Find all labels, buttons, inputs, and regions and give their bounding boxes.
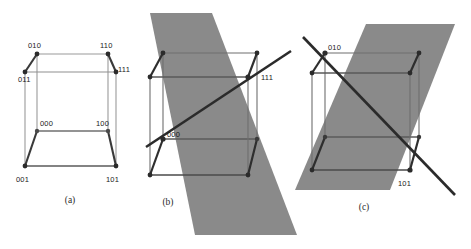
cube-vertex-011 <box>310 71 315 76</box>
cube-vertex-100 <box>255 137 259 141</box>
cube-vertex-000 <box>323 135 327 139</box>
panel-caption-a: (a) <box>65 195 76 206</box>
vertex-label-100: 100 <box>96 119 109 128</box>
panel-caption-b: (b) <box>162 197 173 208</box>
cube-vertex-111 <box>408 71 413 76</box>
vertex-label-111: 111 <box>261 73 273 82</box>
vertex-label-011: 011 <box>18 75 31 84</box>
vertex-label-101: 101 <box>398 179 411 188</box>
cube-vertex-110 <box>417 51 422 56</box>
vertex-label-000: 000 <box>40 119 53 128</box>
cube-vertex-001 <box>23 164 28 169</box>
cube-vertex-101 <box>407 167 412 172</box>
vertex-label-001: 001 <box>16 175 29 184</box>
vertex-label-101: 101 <box>106 175 119 184</box>
cube-vertex-100 <box>417 135 421 139</box>
cube-vertex-101 <box>114 164 119 169</box>
cube-vertex-000 <box>160 136 165 141</box>
cube-vertex-011 <box>148 75 153 80</box>
cube-vertex-100 <box>106 129 110 133</box>
cube-vertex-010 <box>35 52 40 57</box>
vertex-label-010: 010 <box>28 41 41 50</box>
vertex-label-110: 110 <box>100 41 113 50</box>
cube-vertex-110 <box>106 52 111 57</box>
cube-vertex-101 <box>246 173 251 178</box>
cube-vertex-111 <box>245 74 250 79</box>
cube-vertex-001 <box>148 173 153 178</box>
vertex-label-111: 111 <box>118 65 130 74</box>
cube-vertex-010 <box>161 51 166 56</box>
cube-vertex-011 <box>23 70 28 75</box>
cube-vertex-010 <box>322 50 327 55</box>
cube-vertex-110 <box>255 51 260 56</box>
cube-hyperplane-figure: 010 110 011 111 000 100 001 101 (a) <box>0 0 471 249</box>
vertex-label-000: 000 <box>167 130 180 139</box>
panel-caption-c: (c) <box>359 202 370 213</box>
cube-vertex-001 <box>310 168 315 173</box>
cube-vertex-000 <box>35 129 39 133</box>
vertex-label-010: 010 <box>328 43 341 52</box>
